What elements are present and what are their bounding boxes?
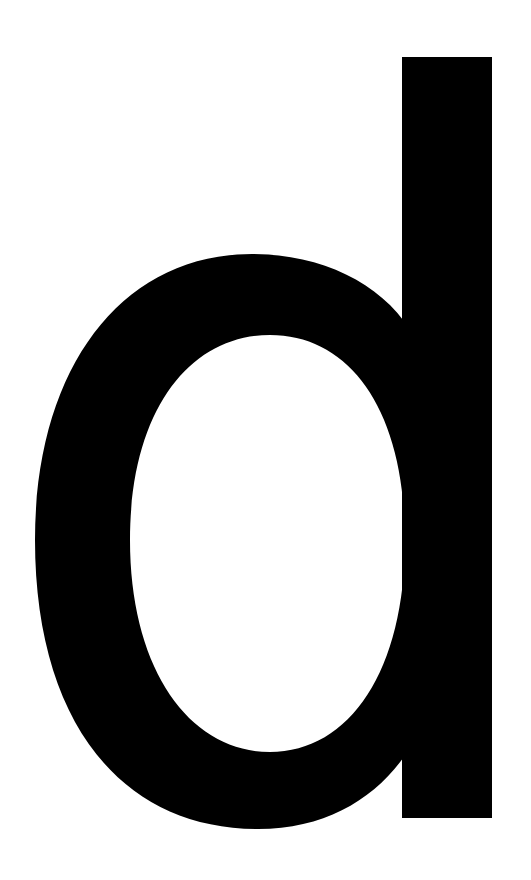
letter-d-glyph: [0, 0, 531, 880]
glyph-bowl: [35, 254, 410, 829]
glyph-stem: [402, 57, 492, 818]
